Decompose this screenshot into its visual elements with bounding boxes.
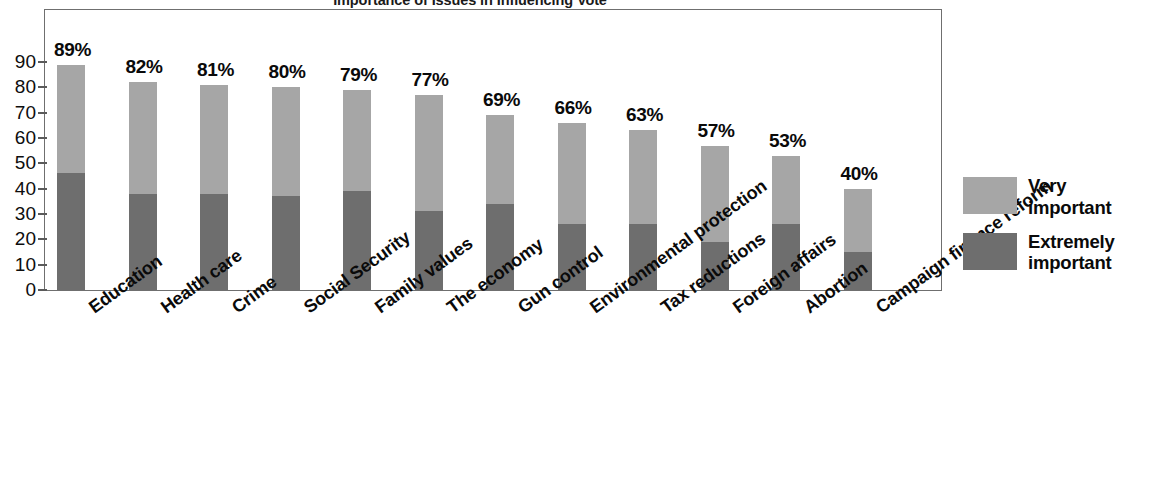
bar-segment-very-important[interactable]: [629, 130, 657, 224]
x-axis-category-label: Abortion: [800, 301, 812, 318]
bar-segment-very-important[interactable]: [57, 65, 85, 174]
x-axis-category-label: Environmental protection: [586, 301, 598, 318]
bar-segment-very-important[interactable]: [200, 85, 228, 194]
chart-title: Importance of Issues in Influencing Vote: [0, 0, 940, 8]
x-axis-category-label: The economy: [443, 301, 455, 318]
legend-color-swatch: [963, 233, 1017, 270]
bar-segment-very-important[interactable]: [558, 123, 586, 224]
bar-value-label: 80%: [268, 61, 305, 83]
bar-segment-extremely-important[interactable]: [57, 173, 85, 290]
bar-value-label: 69%: [483, 89, 520, 111]
y-axis-tick-label: 20: [15, 228, 36, 250]
bar-value-label: 89%: [54, 39, 91, 61]
x-axis-category-label: Health care: [157, 301, 169, 318]
y-axis-tick-label: 80: [15, 76, 36, 98]
legend-item[interactable]: Very important: [963, 175, 1149, 219]
bar-segment-very-important[interactable]: [486, 115, 514, 204]
bar-segment-very-important[interactable]: [272, 87, 300, 196]
x-axis-category-label: Campaign finance reform: [872, 301, 884, 318]
bar-value-label: 77%: [411, 69, 448, 91]
bar-segment-very-important[interactable]: [844, 189, 872, 252]
y-axis-tick-label: 70: [15, 102, 36, 124]
y-axis-tick-label: 10: [15, 254, 36, 276]
legend-item[interactable]: Extremely important: [963, 231, 1149, 275]
bar-value-label: 63%: [626, 104, 663, 126]
y-axis-tick-label: 60: [15, 127, 36, 149]
x-axis-category-label: Crime: [228, 301, 240, 318]
chart-legend: Very importantExtremely important: [963, 175, 1149, 286]
bar-value-label: 40%: [840, 163, 877, 185]
bar-segment-very-important[interactable]: [343, 90, 371, 191]
y-axis-tick-label: 40: [15, 178, 36, 200]
x-axis-category-label: Tax reductions: [657, 301, 669, 318]
x-axis-category-label: Foreign affairs: [729, 301, 741, 318]
bar-segment-very-important[interactable]: [129, 82, 157, 193]
y-axis-tick-label: 30: [15, 203, 36, 225]
bar-value-label: 57%: [697, 120, 734, 142]
bar-value-label: 66%: [554, 97, 591, 119]
y-axis-tick-label: 50: [15, 152, 36, 174]
legend-item-label: Extremely important: [1028, 231, 1115, 275]
legend-item-label: Very important: [1028, 175, 1112, 219]
x-axis-category-label: Social Security: [300, 301, 312, 318]
bar-value-label: 81%: [197, 59, 234, 81]
bar-stack[interactable]: [272, 87, 300, 290]
bar-value-label: 82%: [125, 56, 162, 78]
y-axis: 0102030405060708090: [0, 9, 36, 291]
bar-stack[interactable]: [57, 65, 85, 290]
y-axis-tick-label: 90: [15, 51, 36, 73]
legend-color-swatch: [963, 177, 1017, 214]
bar-segment-very-important[interactable]: [415, 95, 443, 212]
x-axis-category-label: Gun control: [514, 301, 526, 318]
x-axis-category-label: Education: [85, 301, 97, 318]
bar-value-label: 79%: [340, 64, 377, 86]
x-axis-category-labels: EducationHealth careCrimeSocial Security…: [0, 291, 960, 500]
x-axis-category-label: Family values: [371, 301, 383, 318]
bar-segment-extremely-important[interactable]: [272, 196, 300, 290]
bar-value-label: 53%: [769, 130, 806, 152]
chart-figure: Importance of Issues in Influencing Vote…: [0, 0, 1149, 500]
bar-segment-very-important[interactable]: [772, 156, 800, 224]
